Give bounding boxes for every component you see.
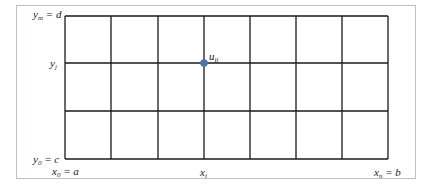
label-x-mid: xi bbox=[200, 167, 207, 180]
label-sub: j bbox=[55, 63, 57, 71]
label-x-right: xn = b bbox=[374, 167, 401, 180]
grid-point-marker bbox=[200, 59, 208, 67]
label-y-top: ym = d bbox=[33, 9, 61, 22]
label-rest: = d bbox=[43, 8, 61, 20]
label-rest: = b bbox=[382, 166, 400, 178]
label-sub: i bbox=[205, 172, 207, 180]
label-rest: = a bbox=[60, 165, 78, 177]
label-y-mid: yj bbox=[50, 58, 57, 71]
mesh-grid bbox=[0, 0, 432, 189]
label-rest: = c bbox=[41, 153, 59, 165]
label-sub: ij bbox=[215, 56, 219, 64]
label-x-left: x0 = a bbox=[52, 166, 79, 179]
label-point-uij: uij bbox=[209, 51, 218, 64]
